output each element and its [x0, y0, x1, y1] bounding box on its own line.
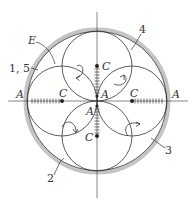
center-dot-top [95, 64, 99, 68]
rotation-arrow-top-left [76, 65, 83, 80]
label-3: 3 [165, 144, 172, 157]
label-E: E [27, 34, 36, 47]
label-C-right: C [130, 87, 139, 100]
rotation-arrow-bottom-left [62, 122, 78, 133]
label-A-center-lower: A [85, 105, 94, 118]
hypocycloid-diagram: A A A A C C C C E 1, 5 4 2 3 [0, 0, 194, 199]
rotation-arrow-top-right [114, 75, 126, 85]
label-2: 2 [47, 172, 54, 185]
point-A-upper-dot [95, 94, 98, 97]
rotation-arrow-bottom-right [126, 122, 140, 136]
point-A-lower-dot [95, 104, 98, 107]
center-dot-bottom [95, 134, 99, 138]
label-C-top: C [102, 60, 111, 73]
label-A-left: A [15, 88, 24, 101]
label-C-left: C [59, 87, 68, 100]
label-1-5: 1, 5 [9, 62, 30, 75]
label-A-center-upper: A [100, 88, 109, 101]
label-C-bottom: C [85, 131, 94, 144]
label-4: 4 [139, 23, 146, 36]
label-A-right: A [171, 88, 180, 101]
